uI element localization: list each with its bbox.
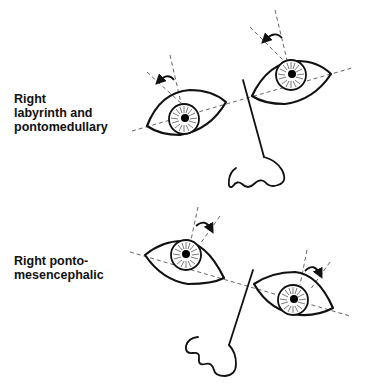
torsion-axis-reference	[300, 250, 307, 285]
torsion-arrow-icon	[159, 76, 174, 81]
bottom-panel	[130, 207, 350, 376]
torsion-arrow-icon	[265, 34, 282, 40]
eye-icon-top-right	[250, 10, 331, 104]
torsion-axis-reference	[191, 207, 198, 240]
torsion-axis-rotated	[200, 216, 220, 244]
torsion-arrow-icon	[196, 223, 211, 229]
nose-icon-top	[229, 80, 284, 187]
nose-icon-bottom	[186, 270, 253, 376]
eye-icon-bottom-left	[145, 207, 224, 284]
torsion-arrow-icon	[305, 267, 320, 274]
torsion-axis-reference	[250, 27, 285, 62]
diagram-canvas	[0, 0, 365, 391]
eye-icon-bottom-right	[254, 250, 333, 315]
top-panel	[132, 10, 352, 187]
